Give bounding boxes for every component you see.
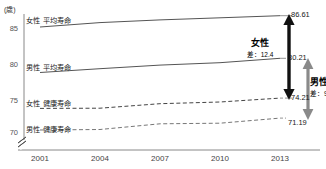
- series-label-female-life-expectancy: 女性 平均寿命: [26, 15, 71, 25]
- series-label-male-healthy-life: 男性 健康寿命: [26, 124, 71, 134]
- series-line-male-healthy-life: [40, 118, 280, 130]
- axis-break-icon: [18, 137, 30, 149]
- series-label-male-life-expectancy: 男性 平均寿命: [26, 62, 71, 72]
- value-label-male-healthy-life: 71.19: [288, 118, 307, 127]
- male-gap-subtitle: 差：9.02: [284, 88, 326, 98]
- female-gap-title: 女性: [236, 36, 284, 49]
- male-gap-callout: 男性 差：9.02: [284, 75, 326, 98]
- value-label-female-life-expectancy: 86.61: [291, 10, 310, 19]
- x-tick-2010: 2010: [200, 154, 240, 163]
- female-gap-subtitle: 差：12.4: [236, 49, 284, 59]
- chart-canvas: [0, 0, 326, 169]
- male-gap-title: 男性: [284, 75, 326, 88]
- x-tick-2004: 2004: [80, 154, 120, 163]
- female-gap-callout: 女性 差：12.4: [236, 36, 284, 59]
- series-line-female-healthy-life: [40, 98, 280, 108]
- value-label-male-life-expectancy: 80.21: [288, 53, 307, 62]
- x-tick-2001: 2001: [20, 154, 60, 163]
- x-tick-2013: 2013: [260, 154, 300, 163]
- series-label-female-healthy-life: 女性 健康寿命: [26, 98, 71, 108]
- x-tick-2007: 2007: [140, 154, 180, 163]
- series-line-female-life-expectancy: [40, 16, 280, 27]
- series-line-male-life-expectancy: [40, 58, 280, 72]
- life-expectancy-chart: (歳) 85 80 75 70: [0, 0, 326, 169]
